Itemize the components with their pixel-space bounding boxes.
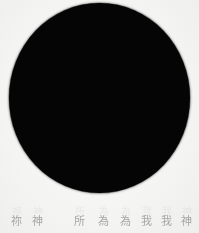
black-circle-figure bbox=[9, 3, 190, 193]
caption-glyph: 神 bbox=[31, 215, 44, 229]
caption-glyph: 我 bbox=[140, 215, 153, 229]
scanned-page: 祢神所為為我我神 祢神所為為我我神 bbox=[0, 0, 199, 233]
caption-glyph: 所 bbox=[73, 215, 86, 229]
caption-glyph: 為 bbox=[97, 215, 110, 229]
caption-glyph: 神 bbox=[180, 215, 193, 229]
caption-glyph: 我 bbox=[160, 215, 173, 229]
caption-row: 祢神所為為我我神 bbox=[0, 213, 199, 231]
caption-glyph: 祢 bbox=[10, 215, 23, 229]
caption-glyph: 為 bbox=[119, 215, 132, 229]
